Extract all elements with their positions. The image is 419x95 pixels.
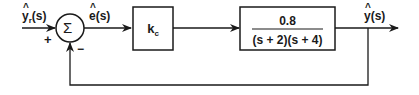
controller-label: kc [133, 21, 173, 36]
diagram-canvas [0, 0, 419, 95]
input-label: yr(s) [22, 10, 46, 22]
sigma-symbol: Σ [63, 20, 72, 35]
input-symbol: y [22, 10, 29, 22]
input-arg: (s) [32, 9, 47, 23]
plus-sign: + [44, 33, 52, 46]
plant-numerator: 0.8 [240, 14, 335, 28]
error-label: e(s) [89, 10, 110, 22]
input-subscript: r [29, 16, 32, 25]
output-symbol: y [364, 10, 371, 22]
error-arg: (s) [96, 9, 111, 23]
output-label: y(s) [364, 10, 385, 22]
controller-subscript: c [154, 29, 158, 38]
minus-sign: − [77, 43, 84, 55]
error-symbol: e [89, 10, 96, 22]
plant-denominator: (s + 2)(s + 4) [240, 33, 335, 47]
output-arg: (s) [371, 9, 386, 23]
